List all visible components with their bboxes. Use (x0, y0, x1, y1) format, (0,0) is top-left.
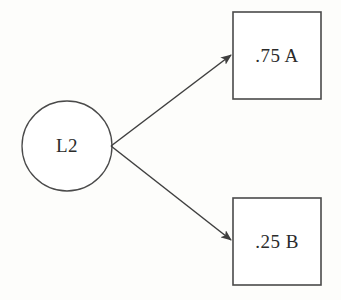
arrow-to-indicator-b (111, 146, 231, 240)
latent-variable-label: L2 (22, 100, 112, 192)
indicator-label-a: .75 A (233, 12, 321, 99)
path-diagram: L2 .75 A .25 B (0, 0, 341, 300)
indicator-label-b: .25 B (233, 198, 321, 285)
arrow-to-indicator-a (111, 55, 231, 146)
